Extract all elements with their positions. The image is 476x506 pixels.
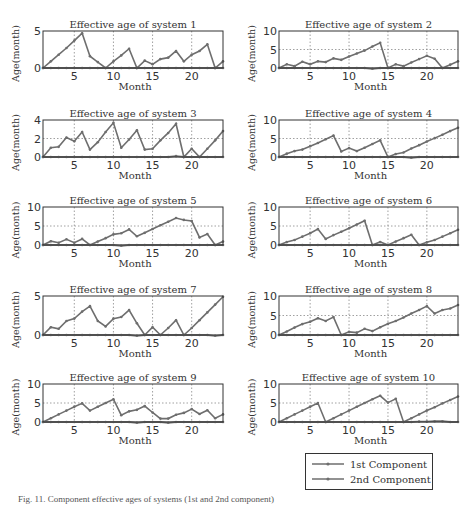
x-tick-label: 20 — [420, 159, 434, 172]
data-point-marker — [65, 136, 68, 139]
data-point-marker — [402, 316, 405, 319]
data-point-marker — [159, 417, 162, 420]
figure-caption: Fig. 11. Component effective ages of sys… — [18, 494, 274, 504]
data-point-marker — [120, 146, 123, 149]
legend-label: 1st Component — [350, 459, 427, 470]
data-point-marker — [340, 150, 343, 153]
data-point-marker — [394, 63, 397, 66]
subplot-10: Effective age of system 1005105101520Mon… — [246, 372, 459, 446]
subplot-8: Effective age of system 805105101520Mont… — [246, 284, 459, 359]
data-point-marker — [136, 235, 139, 238]
y-tick-label: 0 — [270, 62, 277, 75]
data-point-marker — [309, 63, 312, 66]
data-point-marker — [309, 406, 312, 409]
data-point-marker — [167, 221, 170, 224]
y-tick-label: 10 — [27, 201, 41, 214]
x-axis-label: Month — [118, 81, 152, 92]
data-point-marker — [356, 406, 359, 409]
subplot-title: Effective age of system 8 — [305, 284, 432, 295]
data-point-marker — [317, 317, 320, 320]
y-tick-label: 0 — [270, 151, 277, 164]
y-tick-label: 0 — [270, 329, 277, 342]
x-tick-label: 5 — [307, 337, 314, 350]
data-point-marker — [81, 131, 84, 134]
y-tick-label: 0 — [34, 62, 41, 75]
data-point-marker — [371, 330, 374, 333]
data-point-marker — [50, 60, 53, 63]
data-point-marker — [449, 130, 452, 133]
data-point-marker — [293, 413, 296, 416]
subplot-2: Effective age of system 205105101520Mont… — [246, 19, 459, 92]
y-axis-label: Age(month) — [10, 25, 21, 83]
data-point-marker — [363, 49, 366, 52]
data-point-marker — [89, 55, 92, 58]
data-point-marker — [143, 405, 146, 408]
data-point-marker — [159, 224, 162, 227]
data-point-marker — [426, 305, 429, 308]
data-point-marker — [285, 241, 288, 244]
data-point-marker — [206, 147, 209, 150]
data-point-marker — [167, 327, 170, 330]
axes-box — [279, 207, 458, 245]
y-tick-label: 5 — [270, 310, 277, 323]
data-point-marker — [96, 61, 99, 64]
data-point-marker — [206, 233, 209, 236]
data-point-marker — [112, 398, 115, 401]
data-point-marker — [136, 409, 139, 412]
legend-item-2nd-component: 2nd Component — [312, 472, 431, 486]
data-point-marker — [433, 312, 436, 315]
data-point-marker — [50, 240, 53, 243]
data-point-marker — [198, 319, 201, 322]
x-axis-label: Month — [354, 170, 388, 181]
data-point-marker — [348, 409, 351, 412]
data-point-marker — [190, 53, 193, 56]
data-point-marker — [301, 323, 304, 326]
data-point-marker — [410, 147, 413, 150]
series-line-1st-component — [43, 399, 223, 422]
data-point-marker — [143, 148, 146, 151]
x-tick-label: 20 — [420, 247, 434, 260]
data-point-marker — [104, 325, 107, 328]
data-point-marker — [112, 60, 115, 63]
data-point-marker — [418, 413, 421, 416]
y-tick-label: 5 — [270, 44, 277, 57]
data-point-marker — [214, 303, 217, 306]
subplot-title: Effective age of system 3 — [69, 108, 196, 119]
data-point-marker — [309, 145, 312, 148]
x-tick-label: 20 — [420, 337, 434, 350]
data-point-marker — [214, 417, 217, 420]
x-axis-label: Month — [354, 348, 388, 359]
data-point-marker — [65, 409, 68, 412]
y-tick-label: 5 — [270, 397, 277, 410]
data-point-marker — [363, 402, 366, 405]
data-point-marker — [394, 320, 397, 323]
data-point-marker — [104, 402, 107, 405]
data-point-marker — [104, 131, 107, 134]
data-point-marker — [57, 327, 60, 330]
y-tick-label: 5 — [270, 133, 277, 146]
data-point-marker — [285, 152, 288, 155]
y-tick-label: 10 — [263, 114, 277, 127]
axes-box — [43, 31, 223, 68]
data-point-marker — [159, 58, 162, 61]
y-axis-label: Age(month) — [246, 291, 257, 349]
data-point-marker — [356, 150, 359, 153]
series-line-1st-component — [279, 43, 458, 68]
data-point-marker — [433, 406, 436, 409]
subplot-title: Effective age of system 4 — [305, 108, 432, 119]
data-point-marker — [96, 406, 99, 409]
data-point-marker — [136, 322, 139, 325]
data-point-marker — [151, 63, 154, 66]
data-point-marker — [175, 319, 178, 322]
data-point-marker — [340, 230, 343, 233]
data-point-marker — [332, 134, 335, 137]
y-tick-label: 0 — [34, 239, 41, 252]
data-point-marker — [143, 59, 146, 62]
x-tick-label: 20 — [420, 70, 434, 83]
subplot-title: Effective age of system 10 — [302, 372, 435, 383]
data-point-marker — [387, 401, 390, 404]
x-axis-label: Month — [118, 348, 152, 359]
data-point-marker — [198, 50, 201, 53]
data-point-marker — [120, 232, 123, 235]
data-point-marker — [426, 409, 429, 412]
